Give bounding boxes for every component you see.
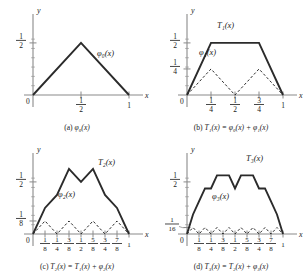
svg-text:1: 1 — [19, 32, 23, 41]
x-axis-label: x — [144, 91, 149, 100]
panel-caption: (a) φ₀(x) — [64, 123, 90, 132]
tick-label-fraction: 12 — [76, 236, 86, 253]
curve-label: φ₀(x) — [97, 48, 114, 58]
tick-label: 1 — [281, 101, 285, 110]
tick-label-fraction: 58 — [242, 236, 252, 253]
tick-label: 1 — [127, 101, 131, 110]
svg-text:5: 5 — [245, 236, 249, 244]
tick-label-fraction: 12 — [16, 171, 26, 189]
svg-text:1: 1 — [79, 236, 83, 244]
tick-label-fraction: 18 — [194, 236, 204, 253]
dashed-curve-label: φ₂(x) — [58, 189, 75, 199]
svg-text:2: 2 — [79, 105, 83, 114]
svg-text:5: 5 — [91, 236, 95, 244]
svg-text:3: 3 — [67, 236, 71, 244]
tick-label-fraction: 12 — [230, 96, 240, 114]
svg-text:4: 4 — [173, 67, 177, 76]
panel-caption: (c) T₂(x) = T₁(x) + φ₂(x) — [40, 262, 114, 271]
svg-text:4: 4 — [209, 245, 213, 253]
x-axis-label: x — [298, 91, 303, 100]
tick-label-fraction: 116 — [165, 216, 179, 233]
svg-text:3: 3 — [257, 96, 261, 105]
svg-text:1: 1 — [197, 236, 201, 244]
tick-label-fraction: 18 — [40, 236, 50, 253]
svg-text:8: 8 — [19, 219, 23, 228]
svg-text:1: 1 — [170, 216, 174, 224]
svg-text:8: 8 — [197, 245, 201, 253]
panel-a: yx012121φ₀(x)(a) φ₀(x) — [0, 0, 154, 138]
tick-label-fraction: 12 — [16, 32, 26, 50]
svg-text:7: 7 — [115, 236, 119, 244]
tick-label-fraction: 12 — [170, 32, 180, 50]
panel-caption: (b) T₁(x) = φ₀(x) + φ₁(x) — [194, 123, 269, 132]
x-axis-label: x — [298, 230, 303, 239]
svg-text:3: 3 — [257, 236, 261, 244]
tick-label-fraction: 12 — [170, 171, 180, 189]
svg-text:2: 2 — [173, 180, 177, 189]
tick-label-fraction: 34 — [254, 96, 264, 114]
svg-text:4: 4 — [103, 245, 107, 253]
svg-text:8: 8 — [67, 245, 71, 253]
svg-text:2: 2 — [233, 245, 237, 253]
svg-text:1: 1 — [209, 96, 213, 105]
y-axis-label: y — [190, 145, 195, 154]
panel-caption: (d) T₃(x) = T₂(x) + φ₃(x) — [194, 262, 269, 271]
svg-text:1: 1 — [209, 236, 213, 244]
tick-label-fraction: 58 — [88, 236, 98, 253]
origin-label: 0 — [180, 236, 184, 245]
dashed-curve-label: φ₃(x) — [212, 191, 229, 201]
curve-label: T₃(x) — [246, 153, 263, 163]
panel-b: yx012141412341T₁(x)φ₁(x)(b) T₁(x) = φ₀(x… — [154, 0, 308, 138]
dashed-curve-label: φ₁(x) — [199, 47, 216, 57]
tick-label-fraction: 12 — [76, 96, 86, 114]
tick-label-fraction: 14 — [170, 58, 180, 76]
svg-text:2: 2 — [19, 41, 23, 50]
tick-label: 1 — [127, 241, 131, 249]
tick-label-fraction: 78 — [266, 236, 276, 253]
svg-text:1: 1 — [233, 236, 237, 244]
tick-label-fraction: 14 — [52, 236, 62, 253]
tick-label-fraction: 38 — [64, 236, 74, 253]
origin-label: 0 — [180, 97, 184, 106]
origin-label: 0 — [26, 236, 30, 245]
svg-text:8: 8 — [115, 245, 119, 253]
y-axis-label: y — [36, 6, 41, 15]
panel-d: yx012116181438125834781T₃(x)φ₃(x)(d) T₃(… — [154, 139, 308, 277]
panel-c: yx01218181438125834781T₂(x)φ₂(x)(c) T₂(x… — [0, 139, 154, 277]
svg-text:2: 2 — [79, 245, 83, 253]
tick-label-fraction: 18 — [16, 210, 26, 228]
svg-text:7: 7 — [269, 236, 273, 244]
svg-text:1: 1 — [19, 171, 23, 180]
y-axis-label: y — [190, 6, 195, 15]
svg-text:8: 8 — [221, 245, 225, 253]
svg-text:1: 1 — [55, 236, 59, 244]
tick-label-fraction: 78 — [112, 236, 122, 253]
x-axis-label: x — [144, 230, 149, 239]
svg-text:1: 1 — [173, 32, 177, 41]
tick-label: 1 — [281, 241, 285, 249]
curve-label: T₂(x) — [98, 157, 115, 167]
svg-text:8: 8 — [269, 245, 273, 253]
svg-text:1: 1 — [79, 96, 83, 105]
svg-text:4: 4 — [257, 245, 261, 253]
svg-text:4: 4 — [209, 105, 213, 114]
dashed-curve — [187, 69, 283, 95]
svg-text:1: 1 — [173, 58, 177, 67]
tick-label-fraction: 14 — [206, 96, 216, 114]
svg-text:2: 2 — [233, 105, 237, 114]
svg-text:1: 1 — [173, 171, 177, 180]
svg-text:1: 1 — [43, 236, 47, 244]
solid-curve — [33, 43, 129, 95]
origin-label: 0 — [26, 97, 30, 106]
svg-text:16: 16 — [169, 225, 177, 233]
svg-text:3: 3 — [103, 236, 107, 244]
solid-curve — [187, 175, 283, 234]
svg-text:4: 4 — [55, 245, 59, 253]
tick-label-fraction: 38 — [218, 236, 228, 253]
tick-label-fraction: 34 — [254, 236, 264, 253]
svg-text:1: 1 — [233, 96, 237, 105]
svg-text:8: 8 — [91, 245, 95, 253]
y-axis-label: y — [36, 145, 41, 154]
svg-text:4: 4 — [257, 105, 261, 114]
svg-text:3: 3 — [221, 236, 225, 244]
